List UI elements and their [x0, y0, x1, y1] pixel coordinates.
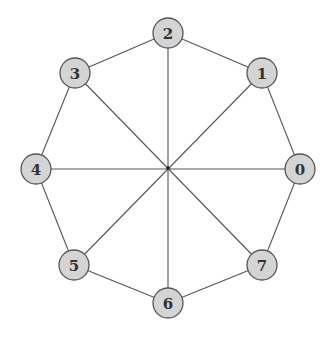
- node-0: 0: [285, 154, 315, 184]
- node-2: 2: [153, 18, 183, 48]
- node-label: 5: [69, 257, 79, 275]
- node-4: 4: [21, 154, 51, 184]
- node-7: 7: [247, 250, 277, 280]
- node-label: 6: [163, 295, 173, 313]
- graph-diagram: 0 1 2 3 4 5 6 7: [0, 0, 334, 340]
- node-label: 4: [31, 161, 41, 179]
- node-5: 5: [59, 250, 89, 280]
- node-1: 1: [247, 58, 277, 88]
- node-label: 3: [70, 65, 80, 83]
- node-3: 3: [60, 58, 90, 88]
- node-label: 1: [257, 65, 267, 83]
- node-label: 7: [257, 257, 267, 275]
- node-label: 0: [295, 161, 305, 179]
- node-6: 6: [153, 288, 183, 318]
- center-point: [166, 166, 170, 170]
- node-label: 2: [163, 25, 173, 43]
